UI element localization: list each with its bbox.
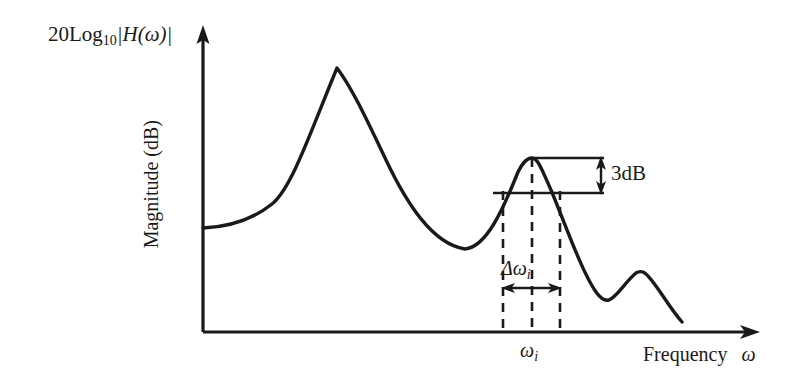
bode-magnitude-figure: 20Log10|H(ω)| Magnitude (dB) 3dB Δωi ωi … [0,0,809,388]
bandwidth-label: Δωi [501,258,531,282]
three-db-double-arrow [596,156,606,195]
y-axis-formula-tail: |H(ω)| [117,22,173,46]
center-frequency-subscript: i [534,349,538,364]
center-frequency-tick-label: ωi [520,340,538,364]
plot-canvas [0,0,809,388]
y-axis-formula-head: 20Log [48,22,103,46]
y-axis-formula-title: 20Log10|H(ω)| [48,24,172,48]
x-axis [203,325,760,339]
y-axis-label: Magnitude (dB) [141,120,161,248]
y-axis-formula-subscript: 10 [103,33,117,48]
bandwidth-label-subscript: i [527,267,531,282]
x-axis-label-text: Frequency [643,343,727,365]
x-axis-label: Frequencyω [643,344,756,364]
y-axis [197,25,210,332]
three-db-label: 3dB [611,163,646,184]
bandwidth-label-symbol: Δω [501,257,527,279]
center-frequency-symbol: ω [520,339,534,361]
magnitude-response-curve [203,68,682,322]
x-axis-label-symbol: ω [741,343,755,365]
